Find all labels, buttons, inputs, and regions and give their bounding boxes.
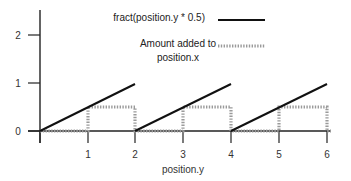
x-ticks: 1 2 3 4 5 6 <box>40 131 330 160</box>
legend: fract(position.y * 0.5) Amount added to … <box>113 12 265 63</box>
x-tick-label: 6 <box>324 149 330 160</box>
legend-label-amount-2: position.x <box>157 52 199 63</box>
series-amount-added <box>40 107 331 131</box>
x-tick-label: 2 <box>132 149 138 160</box>
y-tick-label: 2 <box>15 30 21 41</box>
y-tick-label: 1 <box>15 78 21 89</box>
x-tick-label: 4 <box>228 149 234 160</box>
x-tick-label: 3 <box>180 149 186 160</box>
y-ticks: 0 1 2 <box>15 30 40 137</box>
x-axis-label: position.y <box>162 164 204 175</box>
y-tick-label: 0 <box>15 126 21 137</box>
x-tick-label: 5 <box>276 149 282 160</box>
series-fract <box>40 84 327 131</box>
x-tick-label: 1 <box>85 149 91 160</box>
legend-label-amount-1: Amount added to <box>140 38 217 49</box>
chart: 0 1 2 1 2 3 4 5 6 position.y fract(posit… <box>0 0 351 181</box>
legend-label-fract: fract(position.y * 0.5) <box>113 12 205 23</box>
